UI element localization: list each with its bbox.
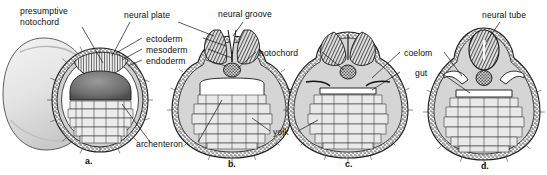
label-notochord: notochord bbox=[259, 48, 298, 58]
label-neural-tube: neural tube bbox=[482, 10, 526, 20]
yolk-mass-c bbox=[308, 95, 388, 149]
panel-label-c: c. bbox=[345, 159, 352, 169]
label-endoderm: endoderm bbox=[146, 56, 186, 66]
label-neural-groove: neural groove bbox=[218, 9, 272, 19]
label-neural-plate: neural plate bbox=[124, 10, 170, 20]
notochord-b bbox=[224, 63, 241, 77]
panel-label-b: b. bbox=[228, 159, 236, 169]
label-gut: gut bbox=[415, 68, 427, 78]
notochord-d bbox=[476, 71, 492, 86]
label-mesoderm: mesoderm bbox=[146, 45, 187, 55]
label-ectoderm: ectoderm bbox=[146, 34, 183, 44]
label-presumptive-notochord: presumptive notochord bbox=[20, 6, 68, 27]
panel-c-embryo bbox=[283, 32, 413, 163]
gut-cavity-c bbox=[320, 88, 376, 94]
notochord-c bbox=[340, 65, 356, 79]
yolk-mass-b bbox=[192, 95, 272, 149]
panel-label-a: a. bbox=[85, 156, 92, 166]
neural-fold-left-b bbox=[204, 30, 226, 64]
embryo-diagram-canvas bbox=[0, 0, 547, 175]
label-coelom: coelom bbox=[404, 48, 432, 58]
panel-d-embryo bbox=[423, 28, 545, 165]
label-archenteron: archenteron bbox=[136, 139, 183, 149]
gut-cavity-d bbox=[456, 90, 512, 97]
label-yolk: yolk bbox=[273, 127, 289, 137]
neurulation-figure: presumptive notochord neural plate neura… bbox=[0, 0, 547, 175]
panel-label-d: d. bbox=[481, 161, 489, 171]
yolk-mass-d bbox=[444, 98, 524, 152]
